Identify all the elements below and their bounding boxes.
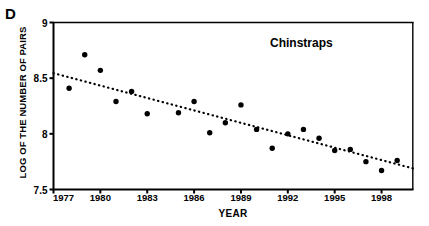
data-point: [254, 127, 259, 132]
trend-line-path: [54, 73, 413, 168]
y-tick-label: 7.5: [34, 184, 48, 195]
x-tick-label: 1992: [277, 192, 298, 203]
x-tick-label: 1998: [371, 192, 392, 203]
data-point: [129, 89, 134, 94]
y-axis-label: LOG OF THE NUMBER OF PAIRS: [17, 15, 28, 191]
data-point: [191, 99, 196, 104]
data-point: [113, 99, 118, 104]
x-tick-label: 1989: [230, 192, 251, 203]
data-point: [98, 68, 103, 73]
data-point: [66, 85, 71, 90]
data-point: [301, 127, 306, 132]
x-tick-label: 1995: [324, 192, 345, 203]
trend-line: [54, 73, 413, 168]
series-label-chinstraps: Chinstraps: [270, 36, 333, 50]
chart-figure: D LOG OF THE NUMBER OF PAIRS YEAR Chinst…: [0, 0, 429, 226]
data-point: [316, 136, 321, 141]
data-point: [145, 111, 150, 116]
data-point: [285, 131, 290, 136]
x-tick-label: 1980: [90, 192, 111, 203]
x-axis-label: YEAR: [53, 208, 413, 219]
data-point: [394, 158, 399, 163]
data-point: [82, 52, 87, 57]
data-point: [176, 110, 181, 115]
data-point: [363, 159, 368, 164]
data-point: [332, 148, 337, 153]
panel-label: D: [5, 6, 16, 21]
data-point: [238, 102, 243, 107]
data-points: [66, 52, 399, 173]
y-tick-label: 8.5: [34, 73, 48, 84]
data-point: [207, 130, 212, 135]
data-point: [270, 146, 275, 151]
data-point: [348, 147, 353, 152]
y-tick-label: 9: [42, 17, 48, 28]
x-tick-label: 1986: [184, 192, 205, 203]
data-point: [379, 168, 384, 173]
x-tick-label: 1977: [53, 192, 74, 203]
data-point: [223, 120, 228, 125]
axes: [53, 22, 414, 190]
x-tick-label: 1983: [137, 192, 158, 203]
y-tick-label: 8: [42, 128, 48, 139]
